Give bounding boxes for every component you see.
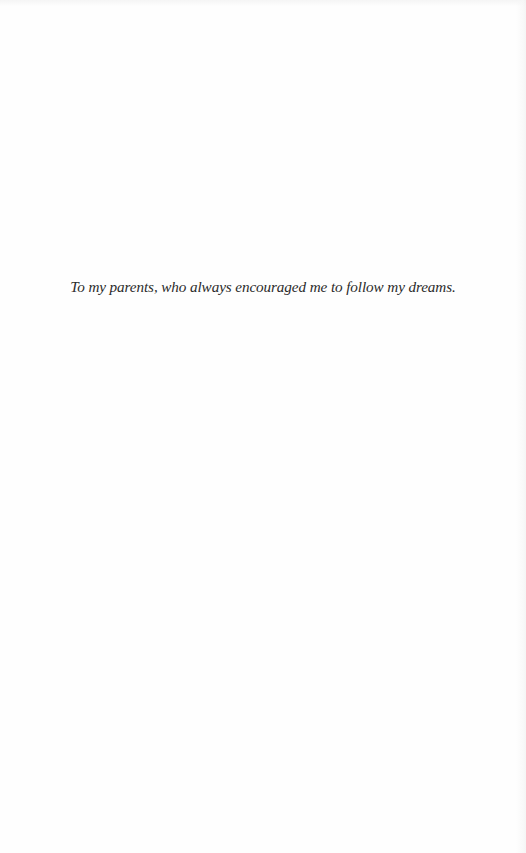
- scan-right-edge-shadow: [516, 0, 526, 853]
- dedication-text: To my parents, who always encouraged me …: [0, 277, 526, 297]
- book-page: To my parents, who always encouraged me …: [0, 0, 526, 853]
- scan-top-edge-shadow: [0, 0, 526, 6]
